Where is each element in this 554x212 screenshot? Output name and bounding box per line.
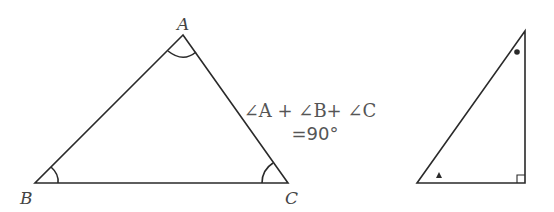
- vertex-label-c: C: [285, 188, 298, 208]
- right-angle-mark-icon: [517, 175, 525, 183]
- angle-arc-c-icon: [262, 163, 273, 183]
- vertex-label-a: A: [175, 14, 189, 34]
- right-triangle-outline: [417, 31, 525, 183]
- dot-angle-mark-icon: [514, 49, 520, 55]
- angle-arc-b-icon: [51, 167, 58, 183]
- triangle-angle-mark-icon: [436, 172, 442, 178]
- vertex-label-b: B: [19, 188, 33, 208]
- right-triangle: [417, 31, 525, 183]
- equation-line-2: =90°: [292, 123, 339, 144]
- equation-line-1: ∠A + ∠B+ ∠C: [244, 100, 377, 121]
- angle-arc-a-icon: [168, 51, 196, 57]
- diagram-canvas: A B C ∠A + ∠B+ ∠C =90°: [0, 0, 554, 212]
